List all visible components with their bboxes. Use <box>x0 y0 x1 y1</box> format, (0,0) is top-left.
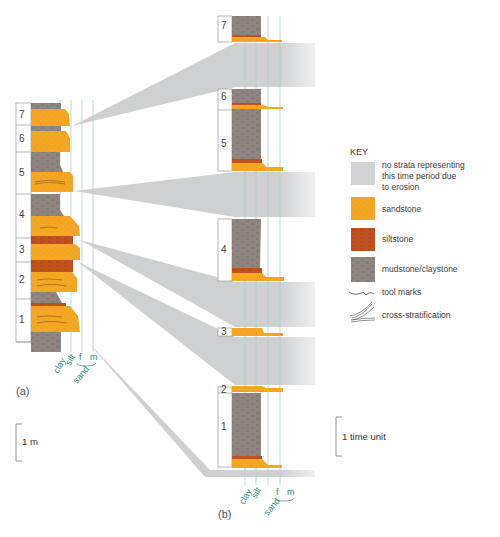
mudstone-swatch <box>351 257 375 282</box>
unit-4-label: 4 <box>221 244 227 255</box>
legend-siltstone: siltstone <box>382 234 413 244</box>
sandstone-swatch <box>351 197 375 220</box>
column-b-grain-size-axis: clay silt f m sand <box>237 485 294 517</box>
scale-bar-label: 1 time unit <box>342 431 386 442</box>
erosion-swatch <box>351 162 375 185</box>
fine-sand-label: f <box>79 352 82 362</box>
legend-erosion-line-1: no strata representing <box>382 160 465 170</box>
panel-a-label: (a) <box>16 385 29 397</box>
column-a-grain-size-axis: clay silt f m sand <box>51 352 97 385</box>
unit-2-label: 2 <box>19 274 25 285</box>
unit-4-label: 4 <box>19 209 25 220</box>
legend-cross-stratification: cross-stratification <box>382 310 451 320</box>
scale-bar-label: 1 m <box>22 436 38 447</box>
unit-6-label: 6 <box>221 91 227 102</box>
silt-label: silt <box>249 485 263 500</box>
unit-3-label: 3 <box>19 244 25 255</box>
panel-b-label: (b) <box>218 508 231 520</box>
scale-bar-1m: 1 m <box>16 424 38 461</box>
siltstone-swatch <box>351 228 375 251</box>
stratigraphic-diagram: 7 6 5 4 3 2 1 7 6 5 4 3 2 1 clay silt f … <box>0 0 500 537</box>
fine-sand-label: f <box>276 487 279 497</box>
scale-bar-time-unit: 1 time unit <box>336 417 386 456</box>
unit-7-label: 7 <box>19 109 25 120</box>
unit-5-label: 5 <box>19 167 25 178</box>
sand-label: sand <box>71 364 91 385</box>
unit-3-label: 3 <box>221 326 227 337</box>
legend-erosion-line-3: to erosion <box>382 182 420 192</box>
unit-7-label: 7 <box>221 20 227 31</box>
legend-erosion-line-2: this time period due <box>382 171 456 181</box>
column-a <box>16 100 93 352</box>
legend-mudstone: mudstone/claystone <box>382 264 458 274</box>
legend-tool-marks: tool marks <box>382 287 421 297</box>
unit-1-label: 1 <box>19 314 25 325</box>
unit-2-label: 2 <box>221 384 227 395</box>
medium-sand-label: m <box>90 352 98 362</box>
legend-title: KEY <box>350 147 368 157</box>
legend-sandstone: sandstone <box>382 204 421 214</box>
unit-5-label: 5 <box>221 138 227 149</box>
legend: KEY no strata representing this time per… <box>349 147 465 322</box>
tool-marks-icon <box>349 292 374 295</box>
unit-1-label: 1 <box>221 421 227 432</box>
medium-sand-label: m <box>287 487 295 497</box>
unit-6-label: 6 <box>19 133 25 144</box>
sand-label: sand <box>262 496 282 517</box>
cross-stratification-icon <box>350 302 375 322</box>
